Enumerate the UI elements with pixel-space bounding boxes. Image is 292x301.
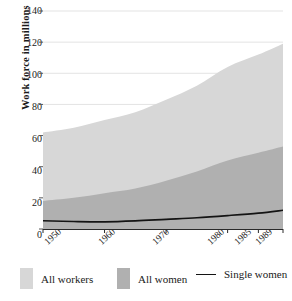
legend-item-all-workers[interactable]: All workers (20, 268, 93, 289)
legend-swatch-all-workers (20, 268, 33, 289)
legend-label-all-women: All women (138, 273, 187, 285)
chart-legend: All workers All women Single women (0, 264, 292, 301)
legend-item-single-women[interactable]: Single women (196, 268, 287, 280)
legend-swatch-all-women (117, 268, 130, 289)
plot-area: Work force in millions 140 120 100 80 60… (0, 0, 292, 262)
legend-line-single-women (196, 274, 216, 275)
chart-figure: Work force in millions 140 120 100 80 60… (0, 0, 292, 301)
chart-svg (0, 0, 292, 262)
area-series-group (43, 44, 283, 229)
legend-label-all-workers: All workers (41, 273, 93, 285)
legend-label-single-women: Single women (224, 268, 287, 280)
legend-item-all-women[interactable]: All women (117, 268, 187, 289)
